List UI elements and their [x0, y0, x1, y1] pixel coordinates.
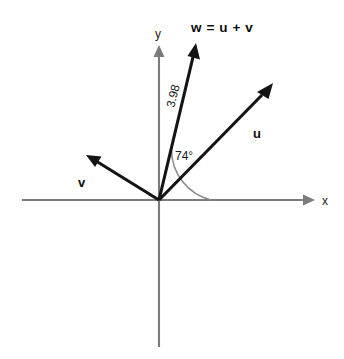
x-axis — [22, 195, 315, 206]
y-axis-label: y — [155, 27, 161, 41]
vector-diagram-canvas: x y 74° v u 3.98 w = u + v — [0, 0, 344, 359]
x-axis-label: x — [322, 194, 328, 208]
y-axis-arrowhead-icon — [154, 45, 165, 57]
x-axis-arrowhead-icon — [303, 195, 315, 206]
vector-v-arrowhead-icon — [86, 155, 102, 167]
vector-w-magnitude-label: 3.98 — [164, 83, 183, 109]
vector-v-shaft — [96, 161, 159, 200]
axes-group: x y — [22, 27, 328, 347]
vector-u-shaft — [159, 95, 262, 200]
vector-sum-label: w = u + v — [190, 20, 253, 35]
angle-arc-group: 74° — [172, 149, 212, 200]
vector-v-label: v — [78, 175, 86, 190]
vector-w-arrowhead-icon — [188, 43, 201, 60]
vector-w-shaft — [159, 57, 193, 200]
vector-diagram-figure: x y 74° v u 3.98 w = u + v — [0, 0, 344, 359]
vector-u-label: u — [253, 126, 261, 141]
angle-label: 74° — [175, 149, 193, 163]
vector-v-group: v — [78, 155, 159, 200]
